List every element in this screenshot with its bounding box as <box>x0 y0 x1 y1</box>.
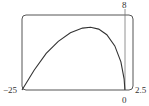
viewing-window-frame <box>22 15 133 90</box>
x-max-label: 2.5 <box>135 86 146 95</box>
graph <box>0 0 149 106</box>
x-zero-label: 0 <box>122 96 127 105</box>
curve-line <box>22 27 125 90</box>
x-min-label: −25 <box>3 86 17 95</box>
y-max-label: 8 <box>122 1 127 10</box>
